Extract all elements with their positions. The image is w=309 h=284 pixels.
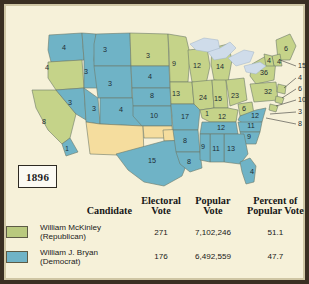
- svg-text:9: 9: [247, 132, 251, 141]
- svg-text:4: 4: [250, 167, 254, 176]
- svg-text:3: 3: [298, 107, 302, 116]
- svg-text:12: 12: [193, 61, 201, 70]
- svg-text:8: 8: [298, 119, 302, 128]
- democrat-candidate-name: William J. Bryan: [40, 248, 132, 257]
- svg-text:13: 13: [172, 89, 180, 98]
- democrat-popular-vote: 6,492,559: [188, 245, 238, 270]
- svg-text:6: 6: [284, 44, 288, 53]
- svg-text:17: 17: [181, 112, 189, 121]
- svg-text:8: 8: [187, 157, 191, 166]
- democrat-percent: 47.7: [238, 245, 309, 270]
- svg-text:11: 11: [247, 121, 254, 130]
- year-label: 1896: [26, 171, 49, 183]
- percent-column-header: Percent of Popular Vote: [238, 196, 309, 220]
- svg-text:4: 4: [45, 63, 49, 72]
- svg-text:3: 3: [108, 79, 112, 88]
- candidate-column-header: Candidate: [38, 196, 134, 220]
- year-label-box: 1896: [18, 165, 57, 188]
- svg-text:13: 13: [227, 144, 235, 153]
- svg-text:3: 3: [103, 45, 107, 54]
- table-row: William J. Bryan (Democrat) 176 6,492,55…: [4, 245, 309, 270]
- popular-vote-header-line2: Vote: [190, 206, 236, 216]
- democrat-candidate-cell: William J. Bryan (Democrat): [38, 245, 134, 270]
- percent-header-line2: Popular Vote: [240, 206, 309, 216]
- results-legend: Candidate Electoral Vote Popular Vote Pe…: [4, 196, 309, 284]
- democrat-swatch-cell: [4, 245, 38, 270]
- republican-popular-vote: 7,102,246: [188, 220, 238, 245]
- svg-text:4: 4: [298, 73, 302, 82]
- map-figure-frame: .st{stroke:#6d7a6a;stroke-width:.6;} .re…: [0, 0, 309, 284]
- democrat-electoral-vote: 176: [134, 245, 188, 270]
- republican-candidate-name: William McKinley: [40, 223, 132, 232]
- svg-text:9: 9: [172, 59, 176, 68]
- electoral-vote-header-line2: Vote: [136, 206, 186, 216]
- svg-text:11: 11: [212, 144, 219, 153]
- svg-text:36: 36: [260, 68, 268, 77]
- svg-text:12: 12: [217, 123, 225, 132]
- svg-text:10: 10: [298, 95, 306, 104]
- svg-text:23: 23: [231, 91, 239, 100]
- svg-text:32: 32: [264, 87, 272, 96]
- svg-text:6: 6: [298, 84, 302, 93]
- table-row: William McKinley (Republican) 271 7,102,…: [4, 220, 309, 245]
- svg-text:1: 1: [65, 145, 69, 152]
- svg-text:12: 12: [251, 111, 259, 120]
- svg-text:8: 8: [42, 117, 46, 126]
- republican-color-swatch: [6, 226, 28, 238]
- table-header-row: Candidate Electoral Vote Popular Vote Pe…: [4, 196, 309, 220]
- svg-text:4: 4: [119, 105, 123, 114]
- republican-swatch-cell: [4, 220, 38, 245]
- svg-text:3: 3: [68, 98, 72, 107]
- svg-text:24: 24: [199, 93, 207, 102]
- swatch-column-header: [4, 196, 38, 220]
- leader-line-labels: 15 4 6 10 3 8: [298, 61, 306, 128]
- popular-vote-column-header: Popular Vote: [188, 196, 238, 220]
- svg-text:4: 4: [62, 43, 66, 52]
- svg-text:14: 14: [216, 62, 224, 71]
- republican-electoral-vote: 271: [134, 220, 188, 245]
- svg-text:4: 4: [267, 56, 271, 65]
- democrat-color-swatch: [6, 251, 28, 263]
- svg-text:8: 8: [150, 91, 154, 100]
- svg-text:3: 3: [92, 104, 96, 113]
- svg-text:10: 10: [150, 111, 158, 120]
- svg-text:15: 15: [214, 94, 222, 103]
- results-table: Candidate Electoral Vote Popular Vote Pe…: [4, 196, 309, 269]
- republican-party-label: (Republican): [40, 232, 132, 241]
- election-map: .st{stroke:#6d7a6a;stroke-width:.6;} .re…: [4, 4, 309, 194]
- democrat-party-label: (Democrat): [40, 257, 132, 266]
- svg-text:3: 3: [84, 67, 88, 76]
- svg-text:9: 9: [201, 142, 205, 151]
- republican-candidate-cell: William McKinley (Republican): [38, 220, 134, 245]
- svg-text:3: 3: [146, 51, 150, 60]
- svg-text:1: 1: [205, 110, 209, 117]
- svg-text:15: 15: [298, 61, 306, 70]
- svg-text:15: 15: [148, 156, 156, 165]
- republican-percent: 51.1: [238, 220, 309, 245]
- svg-text:4: 4: [277, 57, 281, 66]
- svg-text:8: 8: [183, 136, 187, 145]
- map-states-layer: [32, 33, 296, 186]
- svg-text:12: 12: [218, 112, 226, 121]
- electoral-vote-column-header: Electoral Vote: [134, 196, 188, 220]
- svg-text:6: 6: [242, 104, 246, 113]
- svg-text:4: 4: [148, 72, 152, 81]
